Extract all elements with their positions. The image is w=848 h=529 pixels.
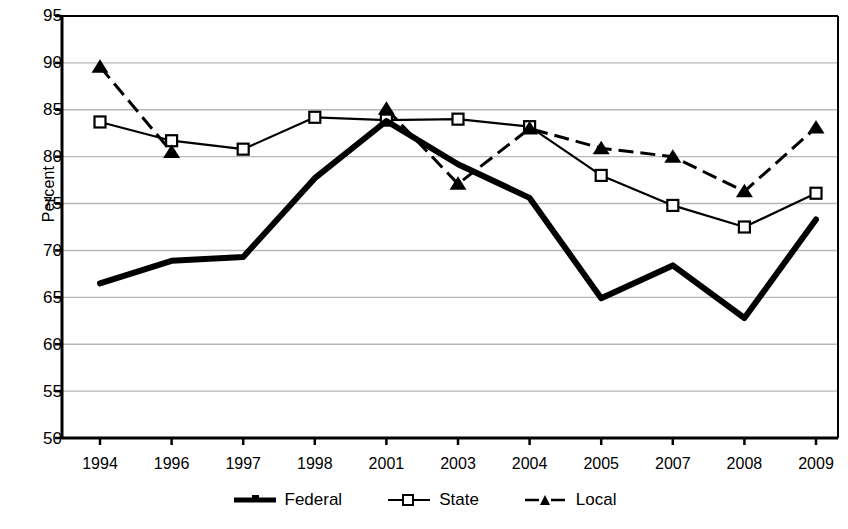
- dashed-triangle-line-swatch: [523, 492, 569, 508]
- x-tick-label: 1998: [285, 455, 345, 473]
- square-marker-line-swatch: [386, 492, 432, 508]
- axis-frame: [62, 16, 838, 438]
- chart-legend: Federal State Local: [0, 490, 848, 510]
- series-line-federal: [100, 121, 816, 318]
- gridlines: [62, 63, 838, 391]
- legend-label-federal: Federal: [285, 490, 343, 510]
- x-tick-label: 2009: [786, 455, 846, 473]
- legend-label-state: State: [439, 490, 479, 510]
- series-line-state: [95, 112, 822, 233]
- series-line-local: [92, 59, 825, 197]
- line-chart: Percent 95 90 85 80 75 70 65 60 55 50 19…: [0, 0, 848, 529]
- legend-item-local: Local: [523, 490, 617, 510]
- x-tick-label: 2003: [428, 455, 488, 473]
- x-tick-label: 1996: [142, 455, 202, 473]
- x-tick-label: 1994: [70, 455, 130, 473]
- x-tick-label: 1997: [213, 455, 273, 473]
- x-tick-label: 2007: [643, 455, 703, 473]
- x-tick-label: 2001: [356, 455, 416, 473]
- thick-line-swatch: [232, 492, 278, 508]
- x-tick-label: 2004: [500, 455, 560, 473]
- plot-area: [0, 0, 848, 529]
- legend-item-federal: Federal: [232, 490, 343, 510]
- x-tick-label: 2008: [714, 455, 774, 473]
- legend-item-state: State: [386, 490, 479, 510]
- x-tick-label: 2005: [571, 455, 631, 473]
- legend-label-local: Local: [576, 490, 617, 510]
